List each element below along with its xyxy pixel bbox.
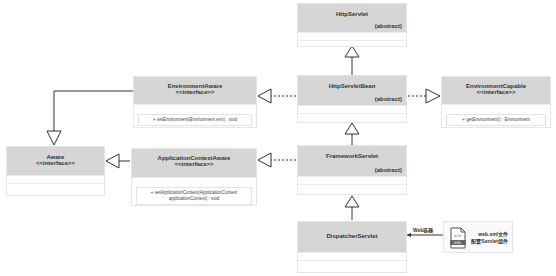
attributes-section (7, 175, 104, 183)
class-header: EnvironmentCapable <<interface>> (442, 77, 550, 104)
class-modifier: (abstract) (375, 23, 402, 29)
class-frameworkservlet[interactable]: FrameworkServlet (abstract) (297, 145, 407, 195)
methods-section (298, 260, 406, 268)
svg-text:XML: XML (454, 241, 461, 245)
method-signature: + setEnvironment(Environment env) : void (138, 114, 252, 126)
attributes-section (134, 104, 256, 111)
class-modifier: (abstract) (375, 96, 402, 102)
class-header: HttpServlet (abstract) (298, 4, 406, 32)
method-line: + setApplicationContext(ApplicationConte… (139, 190, 249, 196)
svg-text:</>: </> (454, 233, 462, 238)
attributes-section (442, 104, 550, 111)
methods-section (298, 40, 406, 48)
class-name: HttpServlet (298, 11, 406, 17)
class-header: EnvironmentAware <<interface>> (134, 77, 256, 104)
class-name: FrameworkServlet (298, 153, 406, 159)
note-text: web.xml文件 配置Servlet组件 (471, 231, 508, 244)
class-stereotype: <<interface>> (442, 89, 550, 95)
class-aware[interactable]: Aware <<interface>> (6, 146, 105, 196)
webxml-note[interactable]: </> XML web.xml文件 配置Servlet组件 (443, 221, 513, 253)
methods-section (298, 184, 406, 192)
attributes-section (298, 252, 406, 260)
class-dispatcherservlet[interactable]: DispatcherServlet (297, 221, 407, 273)
class-httpservlet[interactable]: HttpServlet (abstract) (297, 3, 407, 47)
class-header: DispatcherServlet (298, 222, 406, 252)
class-stereotype: <<interface>> (7, 160, 104, 166)
class-stereotype: <<interface>> (134, 89, 256, 95)
class-environmentaware[interactable]: EnvironmentAware <<interface>> + setEnvi… (133, 76, 257, 128)
class-applicationcontextaware[interactable]: ApplicationContextAware <<interface>> + … (131, 148, 257, 206)
class-header: ApplicationContextAware <<interface>> (132, 149, 256, 177)
class-header: Aware <<interface>> (7, 147, 104, 175)
methods-section (7, 183, 104, 191)
class-environmentcapable[interactable]: EnvironmentCapable <<interface>> + getEn… (441, 76, 551, 128)
class-stereotype: <<interface>> (132, 161, 256, 167)
class-name: HttpServletBean (298, 83, 406, 89)
class-header: HttpServletBean (abstract) (298, 76, 406, 105)
method-signature: + getEnvironment() : Environment (446, 114, 546, 126)
class-header: FrameworkServlet (abstract) (298, 146, 406, 176)
attributes-section (298, 105, 406, 113)
arrow-label: Web容器 (413, 226, 433, 233)
xml-file-icon: </> XML (449, 227, 467, 249)
method-line: applicationContext) : void (139, 196, 249, 202)
attributes-section (298, 176, 406, 184)
attributes-section (132, 177, 256, 184)
attributes-section (298, 32, 406, 40)
class-name: DispatcherServlet (298, 233, 406, 239)
method-signature: + setApplicationContext(ApplicationConte… (136, 187, 252, 205)
note-line: 配置Servlet组件 (471, 238, 508, 245)
class-modifier: (abstract) (375, 167, 402, 173)
class-httpservletbean[interactable]: HttpServletBean (abstract) (297, 75, 407, 123)
methods-section (298, 113, 406, 121)
